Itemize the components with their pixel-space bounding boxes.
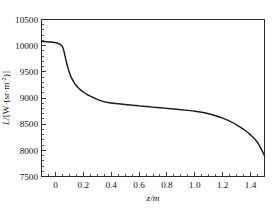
y-tick-label: 9000 [20, 93, 39, 103]
plot-frame [42, 20, 265, 177]
y-tick-label: 8500 [20, 119, 39, 129]
x-tick-label: 0.2 [78, 180, 90, 190]
x-tick-label: 1.0 [189, 180, 201, 190]
y-tick-label: 8000 [20, 146, 39, 156]
data-series-radiance [42, 41, 265, 155]
x-tick-label: 0.4 [105, 180, 117, 190]
x-tick-label: 0.6 [133, 180, 145, 190]
line-chart: 00.20.40.60.81.01.21.4 75008000850090009… [0, 0, 278, 208]
chart-figure: 00.20.40.60.81.01.21.4 75008000850090009… [0, 0, 278, 208]
x-tick-label: 1.2 [217, 180, 229, 190]
y-axis-title: L/[W·(sr·m-2)] [0, 71, 11, 126]
svg-text:L/[W·(sr·m-2)]: L/[W·(sr·m-2)] [0, 71, 11, 126]
x-axis-title: z/m [146, 193, 160, 203]
x-tick-label: 1.4 [245, 180, 257, 190]
y-axis-tick-labels: 750080008500900095001000010500 [15, 15, 38, 182]
y-tick-label: 10500 [15, 15, 38, 25]
x-tick-label: 0.8 [161, 180, 173, 190]
x-tick-label: 0 [53, 180, 58, 190]
x-axis-tick-labels: 00.20.40.60.81.01.21.4 [53, 180, 257, 190]
y-tick-label: 10000 [15, 41, 38, 51]
y-tick-label: 9500 [20, 67, 39, 77]
y-axis-major-ticks [42, 20, 47, 177]
y-tick-label: 7500 [20, 172, 39, 182]
